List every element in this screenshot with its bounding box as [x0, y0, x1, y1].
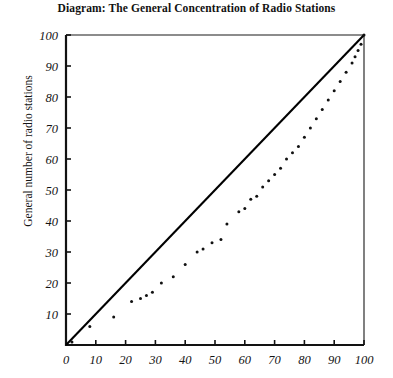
data-point: [327, 99, 330, 102]
data-point: [112, 316, 115, 319]
x-tick-label: 40: [179, 353, 192, 367]
data-point: [160, 282, 163, 285]
data-point: [139, 297, 142, 300]
y-tick-label: 90: [46, 60, 59, 74]
x-axis-tick-labels: 0102030405060708090100: [63, 353, 374, 367]
y-tick-label: 30: [45, 246, 59, 260]
y-tick-label: 60: [46, 153, 59, 167]
plot-area: 0102030405060708090100 10203040506070809…: [0, 0, 393, 378]
data-point: [291, 151, 294, 154]
data-point: [360, 43, 363, 46]
data-point: [354, 55, 357, 58]
data-point: [88, 325, 91, 328]
y-tick-label: 40: [46, 215, 59, 229]
data-point: [309, 127, 312, 130]
data-point: [243, 207, 246, 210]
chart-figure: Diagram: The General Concentration of Ra…: [0, 0, 393, 378]
x-tick-label: 100: [355, 353, 375, 367]
data-point: [211, 241, 214, 244]
data-point: [151, 291, 154, 294]
data-point: [345, 71, 348, 74]
data-point: [130, 300, 133, 303]
y-axis-tick-labels: 102030405060708090100: [39, 29, 59, 322]
data-point: [297, 145, 300, 148]
y-tick-label: 80: [46, 91, 59, 105]
data-point: [219, 238, 222, 241]
data-point: [279, 167, 282, 170]
data-point: [351, 61, 354, 64]
data-point: [303, 136, 306, 139]
x-tick-label: 20: [119, 353, 132, 367]
data-point: [70, 340, 73, 343]
data-point: [255, 195, 258, 198]
data-point: [285, 158, 288, 161]
data-point: [363, 34, 366, 37]
x-tick-label: 30: [148, 353, 162, 367]
y-tick-label: 100: [39, 29, 59, 43]
data-point: [202, 247, 205, 250]
y-tick-label: 10: [46, 308, 59, 322]
data-point: [321, 108, 324, 111]
equality-line: [66, 35, 364, 345]
data-point: [357, 49, 360, 52]
x-tick-label: 80: [298, 353, 311, 367]
data-point: [184, 263, 187, 266]
data-point: [315, 117, 318, 120]
data-point: [333, 89, 336, 92]
data-point: [196, 251, 199, 254]
x-tick-label: 50: [209, 353, 222, 367]
x-tick-label: 60: [239, 353, 252, 367]
data-point: [273, 173, 276, 176]
data-point: [261, 185, 264, 188]
data-point: [172, 275, 175, 278]
x-tick-label: 90: [328, 353, 341, 367]
data-point: [225, 223, 228, 226]
x-tick-label: 70: [268, 353, 281, 367]
y-tick-label: 70: [46, 122, 59, 136]
x-tick-label: 10: [90, 353, 103, 367]
data-point: [339, 80, 342, 83]
equality-line-group: [66, 35, 364, 345]
data-point: [237, 210, 240, 213]
data-point: [145, 294, 148, 297]
data-point: [249, 198, 252, 201]
y-tick-label: 20: [46, 277, 59, 291]
x-tick-label: 0: [63, 353, 70, 367]
y-tick-label: 50: [46, 184, 59, 198]
data-point: [267, 179, 270, 182]
